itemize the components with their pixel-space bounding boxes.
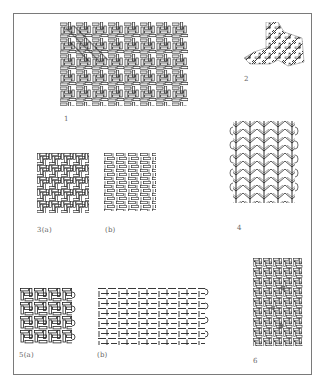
figure-1-twill-weave <box>60 22 188 106</box>
figure-4-chevron-rows <box>229 121 299 203</box>
figure-3a-twill-square <box>37 153 89 213</box>
figure-3b-label: (b) <box>105 226 116 234</box>
figure-5a-twill-selvedge <box>20 288 76 344</box>
figure-2-twill-fragment <box>244 22 306 72</box>
figure-5b-label: (b) <box>97 351 108 359</box>
figure-6-dense-twill <box>253 258 303 346</box>
figure-4-label: 4 <box>237 224 242 232</box>
figure-5b-open-twill <box>97 287 211 345</box>
figure-1-label: 1 <box>64 115 69 123</box>
figure-3b-diagonal-twill <box>104 153 156 211</box>
figure-6-label: 6 <box>253 357 258 365</box>
figure-2-label: 2 <box>244 75 249 83</box>
figure-3a-label: 3(a) <box>37 226 52 234</box>
figure-5a-label: 5(a) <box>19 351 34 359</box>
